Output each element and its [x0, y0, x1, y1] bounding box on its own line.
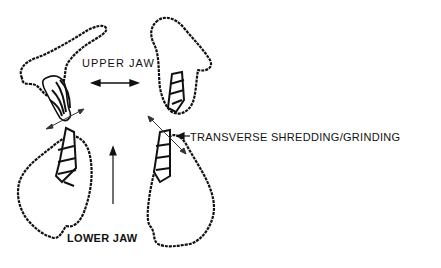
upper-jaw-double-arrow: [92, 80, 138, 86]
diagram-canvas: UPPER JAW LOWER JAW TRANSVERSE SHREDDING…: [0, 0, 441, 268]
upper-jaw-label: UPPER JAW: [82, 57, 155, 69]
right-lower-teeth: [154, 130, 170, 182]
lower-jaw-up-arrow: [110, 147, 116, 204]
lower-jaw-label: LOWER JAW: [67, 232, 138, 244]
transverse-shredding-label: TRANSVERSE SHREDDING/GRINDING: [190, 131, 400, 143]
left-lower-jaw: [18, 136, 92, 238]
left-upper-jaw: [21, 26, 107, 121]
